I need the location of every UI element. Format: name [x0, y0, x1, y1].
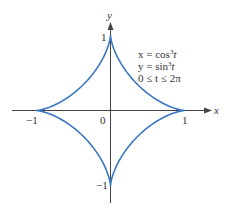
origin-label: 0 — [100, 114, 106, 126]
x-axis-label: x — [213, 104, 219, 116]
x-axis-arrow-icon — [204, 108, 212, 114]
x-tick-pos1: 1 — [182, 114, 188, 126]
y-tick-pos1: 1 — [101, 31, 107, 43]
x-tick-neg1: −1 — [26, 114, 38, 126]
astroid-chart: x y −1 0 1 1 −1 x = cos3t y = sin3t 0 ≤ … — [0, 0, 231, 215]
eq-x-text: x = cos — [138, 48, 170, 60]
equation-range: 0 ≤ t ≤ 2π — [138, 72, 181, 84]
equation-x: x = cos3t — [138, 48, 177, 60]
y-axis-label: y — [106, 9, 112, 21]
eq-y-t: t — [172, 60, 176, 72]
y-tick-neg1: −1 — [96, 179, 108, 191]
y-axis-arrow-icon — [108, 22, 114, 30]
eq-x-t: t — [173, 48, 177, 60]
eq-y-text: y = sin — [138, 60, 169, 72]
equation-y: y = sin3t — [138, 60, 176, 72]
